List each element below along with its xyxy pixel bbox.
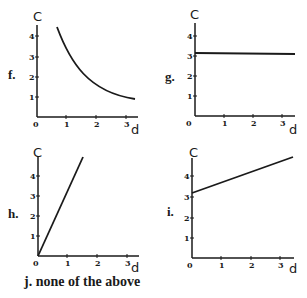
svg-text:3: 3 bbox=[125, 258, 131, 268]
svg-text:3: 3 bbox=[29, 52, 35, 62]
svg-text:3: 3 bbox=[278, 260, 284, 270]
svg-text:2: 2 bbox=[184, 213, 190, 223]
svg-text:0: 0 bbox=[186, 118, 192, 128]
svg-text:3: 3 bbox=[30, 191, 36, 201]
chart-f: f. C d 1 2 3 4 0 1 2 3 bbox=[8, 9, 139, 137]
svg-text:2: 2 bbox=[30, 211, 36, 221]
data-line bbox=[192, 157, 293, 193]
data-line bbox=[38, 157, 83, 256]
y-axis-label: C bbox=[33, 9, 42, 24]
svg-text:2: 2 bbox=[249, 260, 255, 270]
option-label-f: f. bbox=[8, 67, 16, 82]
option-label-g: g. bbox=[165, 69, 175, 84]
svg-text:1: 1 bbox=[222, 118, 228, 128]
svg-text:3: 3 bbox=[187, 51, 193, 61]
chart-grid: f. C d 1 2 3 4 0 1 2 3 g. C d bbox=[0, 0, 307, 298]
svg-text:3: 3 bbox=[184, 192, 190, 202]
svg-text:4: 4 bbox=[184, 171, 190, 181]
svg-text:2: 2 bbox=[251, 118, 257, 128]
svg-text:3: 3 bbox=[280, 118, 286, 128]
y-axis-label: C bbox=[189, 145, 198, 160]
svg-text:1: 1 bbox=[219, 260, 225, 270]
option-j: j. none of the above bbox=[24, 274, 140, 290]
data-line bbox=[195, 53, 295, 54]
svg-text:0: 0 bbox=[33, 258, 39, 268]
x-axis-label: d bbox=[289, 122, 297, 137]
svg-text:2: 2 bbox=[94, 119, 100, 129]
option-label-h: h. bbox=[8, 206, 18, 221]
svg-text:1: 1 bbox=[65, 258, 71, 268]
x-axis-label: d bbox=[289, 261, 297, 276]
svg-text:1: 1 bbox=[184, 233, 190, 243]
svg-text:0: 0 bbox=[187, 260, 193, 270]
chart-i: i. C d 1 2 3 4 0 1 2 3 bbox=[167, 145, 297, 276]
x-axis-label: d bbox=[131, 122, 139, 137]
svg-text:4: 4 bbox=[30, 171, 36, 181]
svg-text:1: 1 bbox=[30, 231, 36, 241]
option-label-i: i. bbox=[167, 204, 174, 219]
svg-text:4: 4 bbox=[187, 31, 193, 41]
svg-text:3: 3 bbox=[124, 119, 130, 129]
x-axis-label: d bbox=[131, 260, 139, 275]
svg-text:1: 1 bbox=[64, 119, 70, 129]
svg-text:1: 1 bbox=[29, 92, 35, 102]
svg-text:2: 2 bbox=[187, 71, 193, 81]
svg-text:2: 2 bbox=[29, 72, 35, 82]
chart-g: g. C d 1 2 3 4 0 1 2 3 bbox=[165, 7, 297, 137]
svg-text:2: 2 bbox=[95, 258, 101, 268]
data-curve bbox=[57, 27, 135, 99]
y-axis-label: C bbox=[190, 7, 199, 22]
svg-text:1: 1 bbox=[187, 91, 193, 101]
chart-h: h. C d 1 2 3 4 0 1 2 3 bbox=[8, 145, 139, 275]
svg-text:4: 4 bbox=[29, 31, 35, 41]
svg-text:0: 0 bbox=[33, 119, 39, 129]
